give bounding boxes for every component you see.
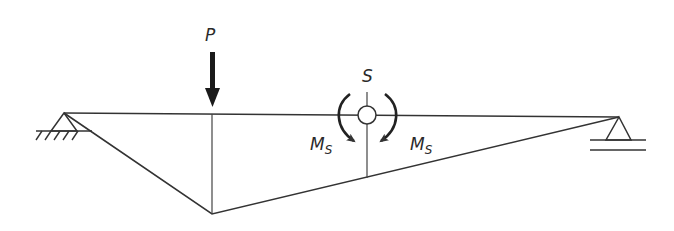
beam-axis (64, 113, 619, 117)
load-label: P (205, 25, 216, 45)
moment-diagram (64, 92, 619, 214)
hinge-label: S (362, 66, 373, 86)
moment-right-arrow-icon (381, 94, 396, 141)
moment-left-arrow-icon (339, 94, 354, 141)
moment-left-label: MS (310, 134, 333, 157)
moment-right-label: MS (410, 134, 433, 157)
beam-diagram: P S MS MS (0, 0, 674, 231)
hinge-icon (358, 106, 376, 124)
load-arrow-icon (205, 52, 220, 107)
